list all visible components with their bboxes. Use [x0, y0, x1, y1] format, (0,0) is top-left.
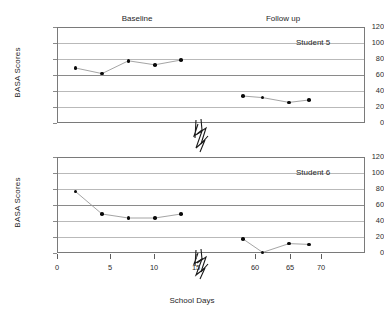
data-point: [261, 251, 265, 255]
data-point: [307, 98, 311, 102]
x-tick-label-10: 10: [142, 264, 166, 272]
data-point: [153, 63, 157, 67]
x-tick-label-70: 70: [309, 264, 333, 272]
y-axis-title-bottom: BASA Scores: [13, 173, 22, 233]
data-point: [127, 59, 131, 63]
x-tick-mark-0: [57, 254, 58, 259]
data-point: [100, 212, 104, 216]
x-tick-mark-10: [154, 254, 155, 259]
data-point: [179, 58, 183, 62]
panel-student-5: Baseline Follow up BASA Scores 120 100 8…: [0, 0, 384, 150]
y-axis-title-top: BASA Scores: [13, 43, 22, 103]
data-point: [307, 243, 311, 247]
x-tick-mark-5: [110, 254, 111, 259]
data-point: [179, 212, 183, 216]
subject-label-student-5: Student 5: [296, 38, 330, 47]
data-point: [74, 190, 78, 194]
data-point: [261, 96, 265, 100]
x-tick-label-15: 15: [184, 264, 208, 272]
phase-label-followup: Follow up: [228, 14, 338, 23]
gridline-80-top: [58, 59, 364, 60]
x-tick-label-0: 0: [45, 264, 69, 272]
x-tick-mark-65: [290, 254, 291, 259]
data-point: [287, 242, 291, 246]
data-point: [127, 216, 131, 220]
x-tick-mark-15: [196, 254, 197, 259]
x-tick-label-60: 60: [243, 264, 267, 272]
x-axis-title: School Days: [142, 296, 242, 305]
x-tick-mark-70: [321, 254, 322, 259]
gridline-60-bottom: [58, 205, 364, 206]
x-tick-label-65: 65: [278, 264, 302, 272]
gridline-80-bottom: [58, 189, 364, 190]
gridline-40-top: [58, 91, 364, 92]
gridline-20-top: [58, 107, 364, 108]
data-point: [74, 66, 78, 70]
gridline-20-bottom: [58, 237, 364, 238]
data-point: [241, 94, 245, 98]
x-tick-mark-60: [255, 254, 256, 259]
panel-student-6: BASA Scores 120 100 80 60 40 20 0: [0, 148, 384, 273]
subject-label-student-6: Student 6: [296, 168, 330, 177]
x-tick-label-5: 5: [98, 264, 122, 272]
data-point: [287, 101, 291, 105]
phase-label-baseline: Baseline: [82, 14, 192, 23]
data-point: [241, 237, 245, 241]
gridline-60-top: [58, 75, 364, 76]
data-point: [153, 216, 157, 220]
y-tick-mark-0-top: [53, 123, 57, 124]
basa-scores-figure: Baseline Follow up BASA Scores 120 100 8…: [0, 0, 384, 325]
gridline-40-bottom: [58, 221, 364, 222]
